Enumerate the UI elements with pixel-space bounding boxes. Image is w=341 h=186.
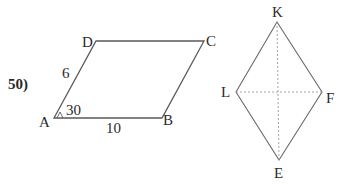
diagonal-ke xyxy=(277,22,279,160)
vertex-label-a: A xyxy=(39,114,50,130)
vertex-label-d: D xyxy=(82,34,93,50)
angle-label-a: 30 xyxy=(66,102,81,118)
side-label-ad: 6 xyxy=(62,65,70,81)
geometry-figure: 50) D C A B 6 30 10 K L F E xyxy=(0,0,341,186)
side-label-ab: 10 xyxy=(106,120,121,136)
vertex-label-k: K xyxy=(272,4,283,20)
vertex-label-l: L xyxy=(221,84,230,100)
parallelogram-abcd: D C A B 6 30 10 xyxy=(39,33,216,136)
vertex-label-f: F xyxy=(326,90,334,106)
problem-number: 50) xyxy=(8,76,28,93)
vertex-label-e: E xyxy=(274,165,283,181)
vertex-label-c: C xyxy=(206,33,216,49)
rhombus-kfel: K L F E xyxy=(221,4,334,181)
diagram-canvas: 50) D C A B 6 30 10 K L F E xyxy=(0,0,341,186)
angle-marker-a xyxy=(57,112,63,118)
vertex-label-b: B xyxy=(163,112,173,128)
